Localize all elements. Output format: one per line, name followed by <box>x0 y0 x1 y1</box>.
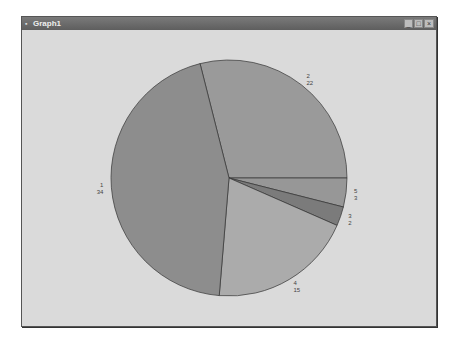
slice-label-value: 15 <box>294 287 301 293</box>
slice-label-value: 34 <box>97 189 104 195</box>
window-title: Graph1 <box>33 18 61 29</box>
slice-label-category: 4 <box>294 280 298 286</box>
slice-label-value: 22 <box>306 80 313 86</box>
pie-chart: 2225332415134 <box>22 30 436 327</box>
slice-label-value: 2 <box>348 220 352 226</box>
close-button[interactable]: × <box>424 19 434 28</box>
graph-window: ▪ Graph1 _ □ × 2225332415134 <box>21 16 437 327</box>
chart-area: 2225332415134 <box>22 30 436 326</box>
slice-label-category: 3 <box>348 213 352 219</box>
slice-label-category: 1 <box>100 182 104 188</box>
title-bar[interactable]: ▪ Graph1 _ □ × <box>22 17 436 30</box>
slice-label-category: 5 <box>354 188 358 194</box>
slice-label-value: 3 <box>354 195 358 201</box>
slice-label-category: 2 <box>306 73 310 79</box>
minimize-button[interactable]: _ <box>404 19 413 28</box>
app-icon[interactable]: ▪ <box>25 20 31 27</box>
maximize-button[interactable]: □ <box>414 19 423 28</box>
